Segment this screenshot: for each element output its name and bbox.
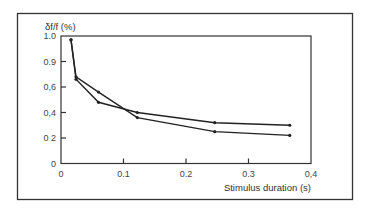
data-point-marker: [288, 124, 291, 127]
x-tick-label: 0.3: [242, 169, 255, 179]
plot-area: [61, 36, 311, 164]
y-tick-label: 0.9: [43, 57, 56, 67]
x-tick-label: 0: [58, 169, 63, 179]
data-point-marker: [288, 134, 291, 137]
line-chart: 00 20,40,60.91.0 00.10.20.30,4 δf/f (%) …: [0, 0, 367, 208]
y-tick-label: 0,4: [43, 108, 56, 118]
data-point-marker: [213, 121, 216, 124]
data-point-marker: [136, 116, 139, 119]
data-point-marker: [69, 38, 72, 41]
y-tick-label: 1.0: [43, 31, 56, 41]
data-point-marker: [213, 130, 216, 133]
x-axis: 00.10.20.30,4: [58, 159, 317, 179]
series-line-1: [71, 40, 290, 136]
x-tick-label: 0,4: [305, 169, 318, 179]
y-axis: 00 20,40,60.91.0: [43, 31, 66, 169]
data-point-marker: [74, 78, 77, 81]
x-axis-title: Stimulus duration (s): [224, 182, 311, 193]
x-tick-label: 0.1: [117, 169, 130, 179]
y-tick-label: 0 2: [43, 133, 56, 143]
y-axis-title: δf/f (%): [45, 21, 76, 32]
data-series: [69, 38, 291, 137]
y-tick-label: 0,6: [43, 82, 56, 92]
data-point-marker: [136, 111, 139, 114]
series-line-2: [71, 40, 290, 126]
data-point-marker: [97, 101, 100, 104]
data-point-marker: [97, 91, 100, 94]
x-tick-label: 0.2: [180, 169, 193, 179]
y-tick-label: 0: [51, 159, 56, 169]
